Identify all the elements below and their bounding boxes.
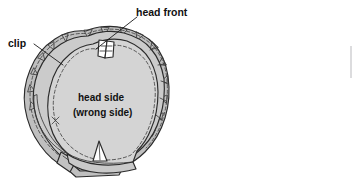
- clip-label: clip: [8, 37, 26, 49]
- pattern-diagram: head front clip head side (wrong side): [0, 0, 363, 189]
- head-side-label: head side: [78, 92, 125, 103]
- wrong-side-label: (wrong side): [73, 107, 132, 118]
- head-front-label: head front: [136, 6, 188, 18]
- head-front-clip-detail: [98, 40, 114, 58]
